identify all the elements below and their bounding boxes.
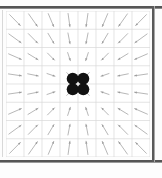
frame-bottom-rule-shadow (0, 162, 162, 163)
frame-right-rule-shadow (154, 6, 155, 162)
scanned-figure (0, 0, 162, 178)
frame-left-rule (2, 10, 3, 157)
center-marker-cluster (6, 11, 150, 157)
plot-area (6, 11, 150, 157)
frame-top-rule-shadow (0, 8, 162, 9)
